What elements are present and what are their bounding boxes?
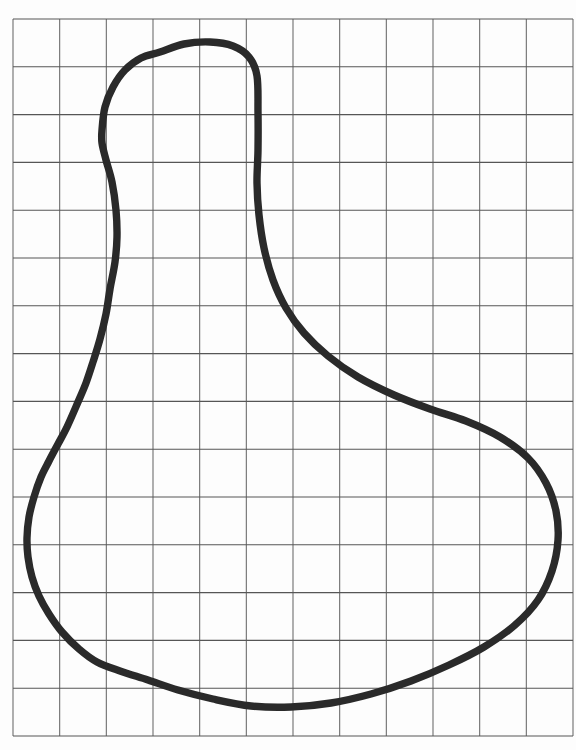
graph-paper-page xyxy=(0,0,576,750)
grid-lines xyxy=(13,19,573,736)
closed-curve-figure xyxy=(0,0,576,750)
